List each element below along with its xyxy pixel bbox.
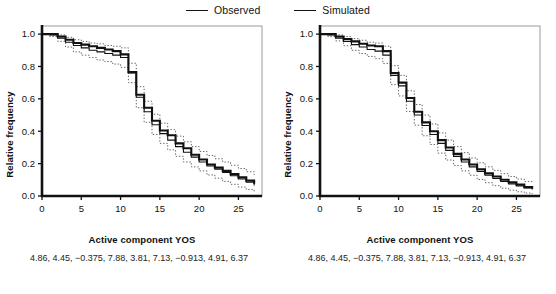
svg-text:0.2: 0.2 [22,158,35,169]
plot-area-right: 0.00.20.40.60.81.00510152025 [294,14,546,244]
svg-text:5: 5 [79,203,84,214]
panel-left: Relative frequency 0.00.20.40.60.81.0051… [0,14,278,294]
figure-root: Observed Simulated Relative frequency 0.… [0,0,556,294]
plot-svg-right: 0.00.20.40.60.81.00510152025 [294,14,546,244]
svg-text:1.0: 1.0 [22,28,35,39]
svg-text:20: 20 [194,203,205,214]
panel-caption-right: 4.86, 4.45, −0.375, 7.88, 3.81, 7.13, −0… [284,252,550,265]
svg-text:25: 25 [233,203,244,214]
panel-right: Relative frequency 0.00.20.40.60.81.0051… [278,14,556,294]
plot-svg-left: 0.00.20.40.60.81.00510152025 [16,14,268,244]
panel-caption-left: 4.86, 4.45, −0.375, 7.88, 3.81, 7.13, −0… [6,252,272,265]
svg-text:0.4: 0.4 [22,126,35,137]
x-axis-title-right: Active component YOS [294,234,546,245]
legend-line-simulated-icon [294,10,316,11]
svg-text:0.6: 0.6 [22,93,35,104]
svg-text:15: 15 [155,203,166,214]
x-axis-title-left: Active component YOS [16,234,268,245]
svg-text:0.0: 0.0 [300,190,313,201]
svg-text:0.4: 0.4 [300,126,313,137]
svg-text:10: 10 [393,203,404,214]
svg-text:0.2: 0.2 [300,158,313,169]
svg-text:15: 15 [433,203,444,214]
plot-area-left: 0.00.20.40.60.81.00510152025 [16,14,268,244]
svg-text:10: 10 [115,203,126,214]
svg-text:0.8: 0.8 [22,61,35,72]
svg-text:20: 20 [472,203,483,214]
svg-text:0: 0 [39,203,44,214]
svg-text:25: 25 [511,203,522,214]
svg-text:0.6: 0.6 [300,93,313,104]
svg-text:5: 5 [357,203,362,214]
svg-text:1.0: 1.0 [300,28,313,39]
svg-text:0.0: 0.0 [22,190,35,201]
svg-text:0.8: 0.8 [300,61,313,72]
legend-line-observed-icon [186,10,208,11]
svg-text:0: 0 [317,203,322,214]
y-axis-title-left: Relative frequency [2,54,16,214]
y-axis-title-right: Relative frequency [280,54,294,214]
